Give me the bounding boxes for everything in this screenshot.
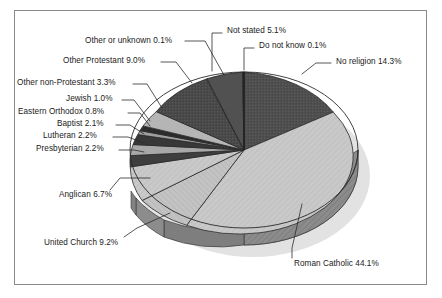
leader-other-protestant	[161, 62, 192, 83]
slice-label-other-protestant: Other Protestant 9.0%	[63, 56, 145, 66]
leader-do-not-know	[244, 48, 254, 70]
slice-label-united-church: United Church 9.2%	[44, 238, 118, 248]
slice-label-presbyterian: Presbyterian 2.2%	[36, 144, 104, 154]
slice-label-eastern-orthodox: Eastern Orthodox 0.8%	[18, 107, 104, 117]
slice-label-lutheran: Lutheran 2.2%	[43, 131, 97, 141]
leader-no-religion	[302, 63, 331, 74]
slice-label-anglican: Anglican 6.7%	[59, 190, 112, 200]
leader-other-or-unknown	[185, 41, 224, 75]
slice-label-other-or-unknown: Other or unknown 0.1%	[85, 36, 172, 46]
slice-label-baptist: Baptist 2.1%	[57, 119, 104, 129]
pie-chart-figure: Not stated 5.1% Do not know 0.1% No reli…	[0, 0, 442, 298]
slice-label-other-non-protestant: Other non-Protestant 3.3%	[17, 78, 116, 88]
leader-not-stated	[212, 33, 222, 71]
slice-label-roman-catholic: Roman Catholic 44.1%	[294, 259, 379, 269]
slice-label-jewish: Jewish 1.0%	[66, 94, 113, 104]
slice-label-not-stated: Not stated 5.1%	[227, 26, 286, 36]
slice-label-do-not-know: Do not know 0.1%	[259, 41, 326, 51]
slice-label-no-religion: No religion 14.3%	[336, 57, 401, 67]
